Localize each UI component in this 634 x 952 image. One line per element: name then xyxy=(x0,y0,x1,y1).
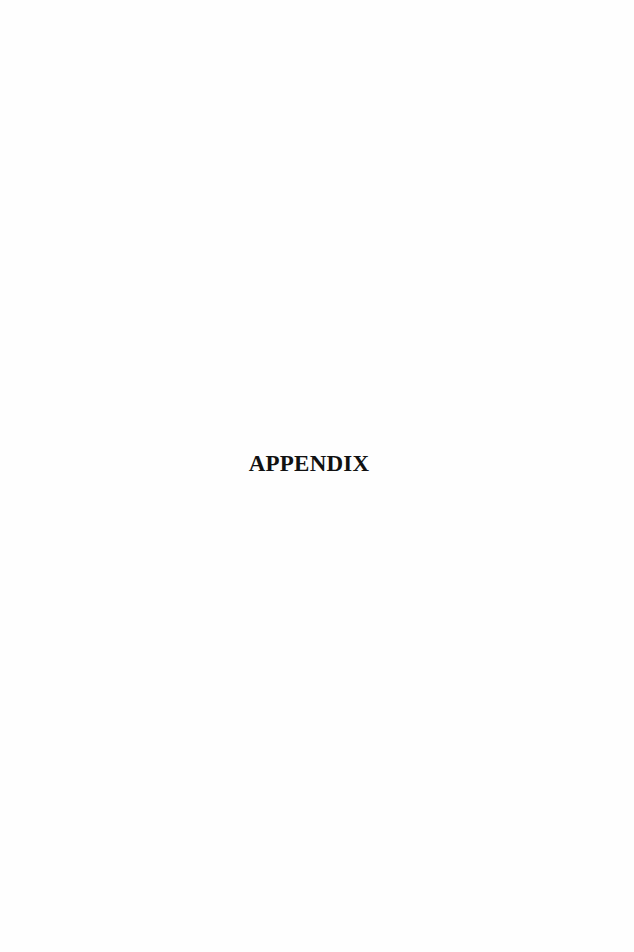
appendix-heading: APPENDIX xyxy=(0,450,618,478)
document-page: APPENDIX xyxy=(0,0,634,952)
